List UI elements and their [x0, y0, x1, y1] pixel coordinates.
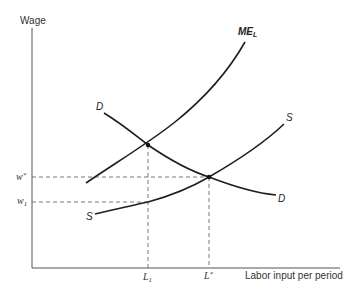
- x-axis-title: Labor input per period: [245, 271, 343, 281]
- me-l-label-main: ME: [238, 26, 253, 37]
- demand-label-right: D: [278, 194, 285, 204]
- l1-tick-label: L1: [143, 272, 152, 284]
- me-l-label-sub: L: [253, 31, 257, 38]
- demand-label-left: D: [96, 102, 103, 112]
- y-axis-title: Wage: [20, 16, 46, 26]
- supply-label-left: S: [86, 212, 93, 222]
- me-l-curve: [86, 42, 245, 183]
- wstar-tick-label: w*: [16, 172, 26, 182]
- l1-sub: 1: [149, 276, 153, 284]
- wstar-main: w: [16, 171, 23, 182]
- intersection-d-me: [146, 143, 150, 147]
- w1-tick-label: w1: [17, 196, 27, 208]
- wstar-sup: *: [23, 171, 27, 179]
- w1-main: w: [17, 195, 24, 206]
- monopsony-diagram: [0, 0, 360, 296]
- supply-label-right: S: [286, 113, 293, 123]
- lstar-sup: *: [210, 270, 214, 278]
- w1-sub: 1: [24, 200, 28, 208]
- me-l-label: MEL: [238, 27, 257, 38]
- intersection-d-s: [207, 175, 211, 179]
- lstar-tick-label: L*: [204, 271, 213, 281]
